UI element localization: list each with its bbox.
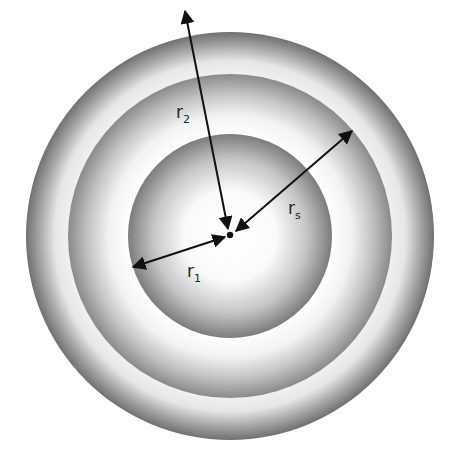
center-point xyxy=(227,232,233,238)
concentric-shells-diagram: r2 rs r1 xyxy=(0,0,461,466)
